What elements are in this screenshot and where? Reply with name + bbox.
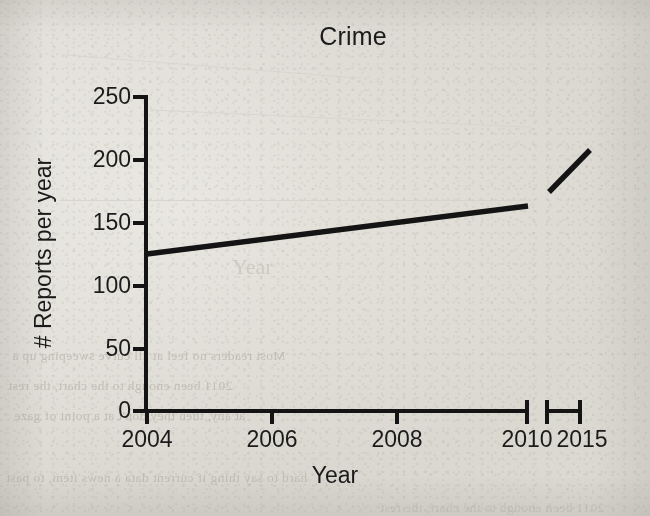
- chart-canvas: Crime 250 200 150 100 50 0 2004 2006 200…: [0, 0, 650, 516]
- scanned-chart-page: Year Most readers no feel at all curve s…: [0, 0, 650, 516]
- data-series-layer: [0, 0, 650, 516]
- series-observed-reports: [147, 206, 528, 254]
- y-axis-label: # Reports per year: [30, 108, 57, 398]
- series-projected-reports: [549, 150, 590, 192]
- x-axis-label: Year: [0, 462, 650, 489]
